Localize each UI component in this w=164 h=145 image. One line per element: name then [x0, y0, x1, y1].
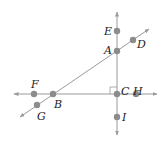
- point-g: G: [34, 102, 46, 123]
- point-dot: [114, 114, 120, 120]
- point-label: I: [121, 111, 127, 124]
- point-label: G: [37, 110, 46, 123]
- point-dot: [130, 37, 136, 43]
- point-a: A: [103, 44, 120, 57]
- point-dot: [34, 102, 40, 108]
- point-label: A: [103, 44, 112, 57]
- point-label: H: [132, 85, 143, 98]
- points-group: ABCDEFGHI: [30, 25, 146, 124]
- point-d: D: [130, 37, 146, 51]
- diagram-svg: ABCDEFGHI: [0, 0, 164, 145]
- point-h: H: [132, 85, 143, 98]
- point-label: D: [136, 38, 146, 51]
- point-dot: [31, 91, 37, 97]
- point-label: E: [103, 25, 112, 38]
- point-label: F: [30, 78, 39, 91]
- point-dot: [114, 91, 120, 97]
- point-e: E: [103, 25, 120, 38]
- geometry-diagram: ABCDEFGHI: [0, 0, 164, 145]
- lines-group: [14, 12, 157, 135]
- point-dot: [50, 91, 56, 97]
- point-dot: [114, 48, 120, 54]
- point-dot: [114, 28, 120, 34]
- point-label: C: [121, 85, 130, 98]
- point-i: I: [114, 111, 127, 124]
- point-label: B: [53, 98, 62, 111]
